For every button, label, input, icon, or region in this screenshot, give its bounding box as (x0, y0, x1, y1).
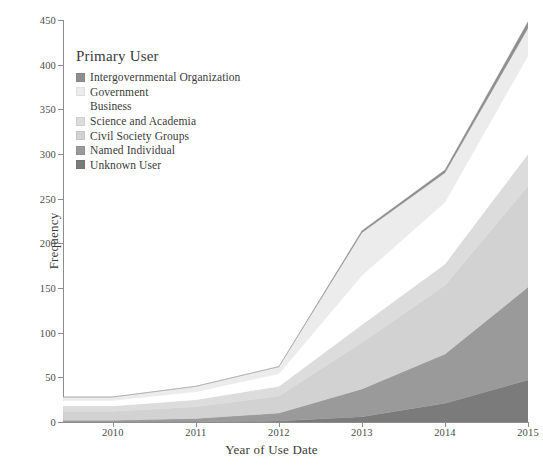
x-axis-tick-label: 2013 (351, 427, 373, 438)
x-axis-tick-mark (113, 422, 114, 427)
y-axis-tick-mark (58, 288, 63, 289)
y-axis-tick-label: 50 (4, 372, 56, 383)
y-axis-tick-mark (58, 333, 63, 334)
y-axis-tick-mark (58, 199, 63, 200)
legend-swatch-icon (76, 160, 85, 169)
legend-swatch-icon (76, 102, 85, 111)
legend-title: Primary User (76, 48, 326, 65)
legend-item[interactable]: Business (76, 99, 326, 114)
legend-item-label: Science and Academia (90, 115, 196, 127)
legend-item-label: Business (90, 100, 132, 112)
y-axis-tick-label: 450 (4, 15, 56, 26)
legend-item-label: Civil Society Groups (90, 130, 189, 142)
x-axis-tick-mark (528, 422, 529, 427)
x-axis-tick-label: 2012 (268, 427, 290, 438)
legend-item[interactable]: Unknown User (76, 158, 326, 173)
legend-item[interactable]: Named Individual (76, 143, 326, 158)
y-axis-tick-mark (58, 377, 63, 378)
legend-item[interactable]: Science and Academia (76, 114, 326, 129)
legend-item[interactable]: Government (76, 85, 326, 100)
y-axis-tick-mark (58, 243, 63, 244)
x-axis-tick-mark (279, 422, 280, 427)
y-axis-tick-mark (58, 422, 63, 423)
legend-swatch-icon (76, 146, 85, 155)
y-axis-tick-mark (58, 20, 63, 21)
legend-item[interactable]: Intergovernmental Organization (76, 70, 326, 85)
legend-swatch-icon (76, 87, 85, 96)
x-axis-tick-label: 2011 (185, 427, 206, 438)
legend-swatch-icon (76, 131, 85, 140)
x-axis-tick-label: 2010 (102, 427, 124, 438)
y-axis-tick-label: 300 (4, 149, 56, 160)
x-axis-tick-label: 2014 (434, 427, 456, 438)
y-axis-tick-label: 0 (4, 417, 56, 428)
y-axis-tick-label: 350 (4, 104, 56, 115)
legend-item-label: Intergovernmental Organization (90, 71, 240, 83)
legend-items: Intergovernmental OrganizationGovernment… (76, 70, 326, 172)
legend-swatch-icon (76, 73, 85, 82)
x-axis-tick-mark (362, 422, 363, 427)
y-axis-tick-mark (58, 154, 63, 155)
y-axis-tick-mark (58, 65, 63, 66)
y-axis-tick-mark (58, 109, 63, 110)
y-axis-tick-label: 100 (4, 327, 56, 338)
legend-item[interactable]: Civil Society Groups (76, 128, 326, 143)
x-axis-tick-label: 2015 (517, 427, 539, 438)
x-axis-tick-mark (445, 422, 446, 427)
x-axis-title: Year of Use Date (0, 442, 543, 458)
y-axis-tick-label: 400 (4, 59, 56, 70)
legend-swatch-icon (76, 117, 85, 126)
legend-item-label: Named Individual (90, 144, 175, 156)
legend: Primary User Intergovernmental Organizat… (76, 48, 326, 172)
x-axis-line (63, 422, 529, 423)
legend-item-label: Unknown User (90, 159, 161, 171)
legend-item-label: Government (90, 86, 148, 98)
x-axis-tick-mark (196, 422, 197, 427)
stacked-area-chart: 050100150200250300350400450 201020112012… (0, 0, 543, 466)
